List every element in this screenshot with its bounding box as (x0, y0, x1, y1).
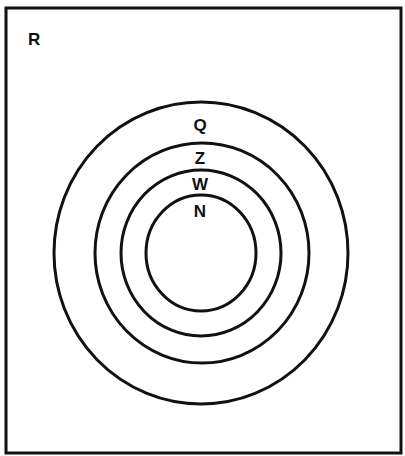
label-r: R (28, 30, 40, 49)
nested-sets-diagram: R Q Z W N (0, 0, 405, 456)
universe-frame-r (6, 8, 401, 453)
label-w: W (192, 175, 209, 194)
label-z: Z (195, 149, 205, 168)
label-q: Q (193, 116, 206, 135)
label-n: N (194, 202, 206, 221)
